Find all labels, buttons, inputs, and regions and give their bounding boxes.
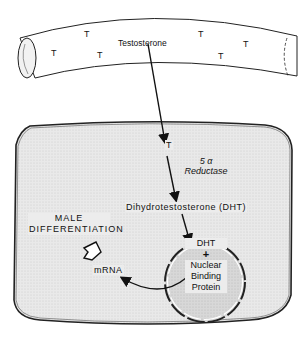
nucleus-line2: + xyxy=(185,249,227,260)
testosterone-label: Testosterone xyxy=(118,38,167,48)
nucleus-line4: Binding xyxy=(185,271,227,282)
blood-vessel xyxy=(18,18,297,78)
outcome-line2: DIFFERENTIATION xyxy=(29,224,109,235)
nucleus-line3: Nuclear xyxy=(185,260,227,271)
enzyme-line1: 5 α xyxy=(181,156,231,166)
enzyme-label: 5 α Reductase xyxy=(181,156,231,176)
vessel-t-symbol: T xyxy=(243,39,249,49)
male-differentiation-label: MALE DIFFERENTIATION xyxy=(28,213,110,235)
vessel-t-symbol: T xyxy=(218,51,224,61)
vessel-t-symbol: T xyxy=(51,48,57,58)
dht-label: Dihydrotestosterone (DHT) xyxy=(125,202,247,212)
nucleus-content-label: DHT + Nuclear Binding Protein xyxy=(185,238,227,293)
vessel-t-symbol: T xyxy=(97,50,103,60)
outcome-line1: MALE xyxy=(29,213,109,224)
mrna-label: mRNA xyxy=(93,265,124,275)
t-entry-label: T xyxy=(165,140,173,150)
diagram-canvas xyxy=(0,0,307,342)
enzyme-line2: Reductase xyxy=(181,166,231,176)
nucleus-line5: Protein xyxy=(185,282,227,293)
vessel-t-symbol: T xyxy=(84,29,90,39)
vessel-t-symbol: T xyxy=(198,29,204,39)
